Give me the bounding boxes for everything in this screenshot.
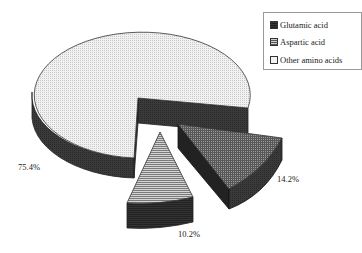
legend-item-aspartic-acid: Aspartic acid <box>270 34 361 52</box>
legend-label: Aspartic acid <box>280 37 325 47</box>
data-label-glutamic: 14.2% <box>277 174 299 184</box>
glutamic-swatch-icon <box>270 21 278 29</box>
data-label-aspartic: 10.2% <box>178 229 200 239</box>
legend-item-glutamic-acid: Glutamic acid <box>270 16 361 34</box>
legend: Glutamic acid Aspartic acid Other amino … <box>263 12 362 70</box>
legend-label: Other amino acids <box>280 55 342 65</box>
legend-item-other-amino-acids: Other amino acids <box>270 51 361 69</box>
aspartic-swatch-icon <box>270 38 278 46</box>
slice-glutamic-acid <box>178 124 282 209</box>
legend-label: Glutamic acid <box>280 20 328 30</box>
other-swatch-icon <box>270 56 278 64</box>
data-label-other: 75.4% <box>18 162 40 172</box>
